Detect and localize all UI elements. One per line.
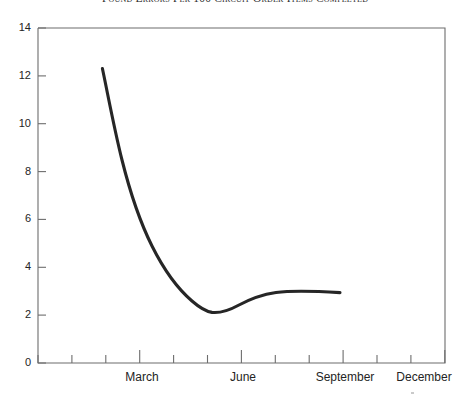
y-tick-label: 2 bbox=[25, 308, 31, 320]
scan-artifact bbox=[411, 392, 414, 394]
error-rate-curve bbox=[102, 69, 340, 313]
y-tick-label: 14 bbox=[19, 21, 31, 33]
plot-area: 0 2 4 6 8 10 12 14 March bbox=[0, 0, 470, 403]
y-tick-label: 12 bbox=[19, 69, 31, 81]
y-tick-label: 10 bbox=[19, 117, 31, 129]
x-tick-labels: March June September December bbox=[125, 370, 451, 384]
y-tick-label: 4 bbox=[25, 260, 31, 272]
x-tick-label-june: June bbox=[230, 370, 256, 384]
y-tick-label: 0 bbox=[25, 356, 31, 368]
x-tick-label-march: March bbox=[125, 370, 158, 384]
x-tick-label-september: September bbox=[316, 370, 375, 384]
x-tick-marks bbox=[38, 350, 445, 363]
y-tick-label: 6 bbox=[25, 212, 31, 224]
y-tick-label: 8 bbox=[25, 165, 31, 177]
x-tick-label-december: December bbox=[396, 370, 451, 384]
chart-container: Found Errors Per 100 Circuit Order Items… bbox=[0, 0, 470, 403]
y-tick-labels: 0 2 4 6 8 10 12 14 bbox=[19, 21, 31, 368]
y-tick-marks bbox=[38, 28, 46, 363]
plot-frame bbox=[38, 28, 445, 363]
